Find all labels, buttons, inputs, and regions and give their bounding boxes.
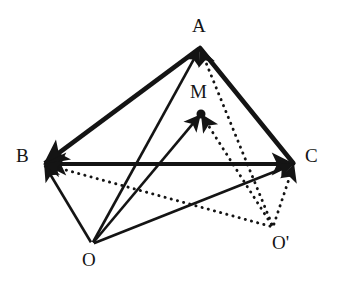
vector-O-C: [94, 165, 293, 244]
edge-A-C: [200, 48, 293, 163]
vectors-from-O-layer: [45, 49, 293, 243]
vector-Oprime-C: [274, 165, 294, 224]
vector-diagram-figure: A B C M O O': [0, 0, 338, 283]
vertex-label-B: B: [16, 146, 29, 165]
vector-Oprime-M: [202, 115, 272, 224]
vector-O-A: [93, 49, 199, 242]
vertex-label-C: C: [305, 146, 318, 165]
vertex-label-M: M: [190, 82, 207, 101]
vertex-label-O: O: [82, 250, 96, 269]
vertex-label-A: A: [192, 16, 206, 35]
point-dot-M: [197, 110, 206, 119]
edge-A-B: [45, 49, 199, 164]
vector-O-B: [45, 165, 91, 242]
point-markers-layer: [197, 110, 206, 119]
vertex-label-O-prime: O': [272, 233, 289, 252]
